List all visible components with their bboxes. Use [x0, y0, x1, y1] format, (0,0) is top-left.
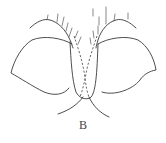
central-sheath [70, 42, 98, 99]
left-lobe [11, 37, 72, 94]
right-lobe [98, 37, 156, 93]
left-upper-arc [30, 19, 73, 48]
right-setae [90, 7, 128, 44]
left-dashed-curve [74, 36, 89, 97]
left-setae [47, 14, 81, 44]
left-tail [58, 97, 83, 114]
right-tail [89, 97, 109, 117]
right-upper-arc [96, 19, 136, 48]
figure-label: B [0, 118, 166, 133]
